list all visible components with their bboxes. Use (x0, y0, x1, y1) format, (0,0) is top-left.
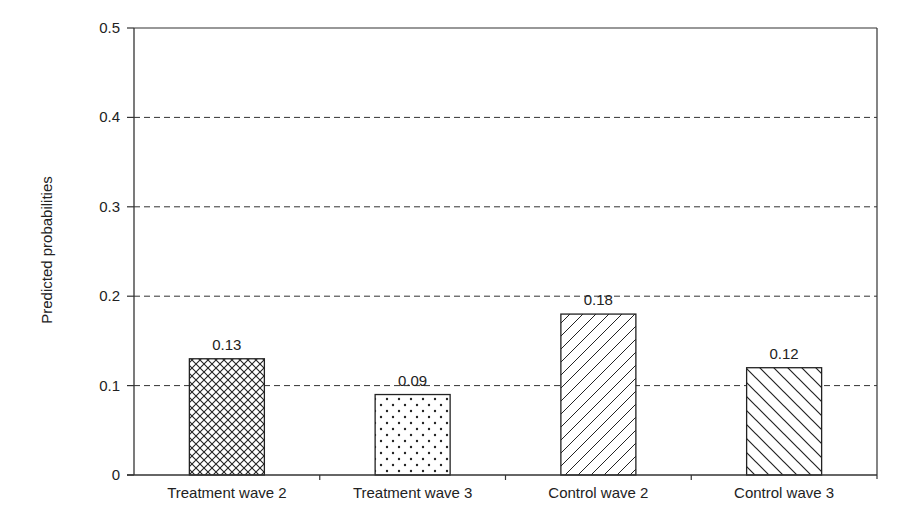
y-tick-label: 0.2 (99, 287, 120, 304)
y-tick-label: 0.3 (99, 198, 120, 215)
bar-value-label: 0.13 (212, 336, 241, 353)
bars: 0.130.090.180.12 (189, 291, 821, 475)
gridlines (134, 117, 877, 385)
x-tick-label: Control wave 2 (548, 484, 648, 501)
bar (747, 368, 822, 475)
bar-value-label: 0.18 (584, 291, 613, 308)
y-tick-label: 0.4 (99, 108, 120, 125)
bar (375, 395, 450, 475)
y-tick-label: 0.5 (99, 19, 120, 36)
y-tick-label: 0 (112, 466, 120, 483)
bar-value-label: 0.09 (398, 372, 427, 389)
y-tick-label: 0.1 (99, 377, 120, 394)
bar-value-label: 0.12 (770, 345, 799, 362)
bar (561, 314, 636, 475)
x-tick-label: Treatment wave 3 (353, 484, 473, 501)
chart: 0.130.090.180.12 00.10.20.30.40.5Treatme… (0, 0, 922, 532)
x-tick-label: Treatment wave 2 (167, 484, 287, 501)
bar (189, 359, 264, 475)
y-axis-label: Predicted probabilities (38, 176, 55, 324)
x-tick-label: Control wave 3 (734, 484, 834, 501)
